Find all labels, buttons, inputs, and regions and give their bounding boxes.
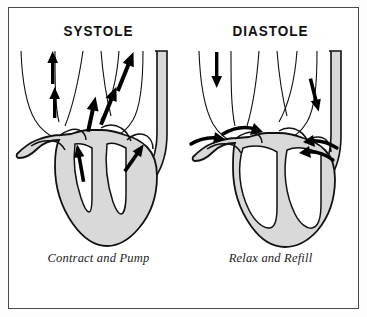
outflow-arrow-left-lower <box>49 87 60 118</box>
heart-diagram-systole <box>15 48 183 248</box>
pulmonary-trunk-right-outline <box>277 51 287 116</box>
pulmonary-trunk-left-outline <box>65 51 83 126</box>
inflow-arrow-superior-vena-cava <box>211 52 222 88</box>
panel-systole: SYSTOLE <box>11 8 186 308</box>
panel-title-diastole: DIASTOLE <box>189 23 352 39</box>
aorta-inner-outline <box>279 51 297 122</box>
outflow-arrow-center <box>82 95 101 133</box>
heart-diagram-diastole <box>187 48 355 248</box>
outflow-arrow-left-upper <box>47 51 58 84</box>
panel-caption-systole: Contract and Pump <box>11 251 186 266</box>
figure-frame: SYSTOLE <box>8 7 359 309</box>
inflow-arrow-right-vessel <box>305 77 323 113</box>
panel-caption-diastole: Relax and Refill <box>183 251 358 266</box>
panel-diastole: DIASTOLE <box>183 8 358 308</box>
vena-cava-inner-wall <box>231 51 235 126</box>
panel-title-systole: SYSTOLE <box>17 23 180 39</box>
pulmonary-trunk-left-outline <box>247 51 259 126</box>
cardiac-cycle-figure: SYSTOLE <box>0 0 367 317</box>
